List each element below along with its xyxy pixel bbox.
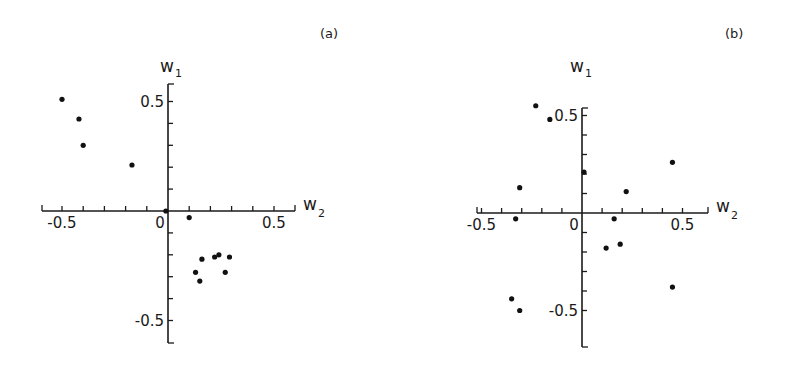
y-tick-label: -0.5 — [549, 302, 578, 320]
scatter-panel-b: -0.500.50.5-0.5w1w2(b) — [467, 26, 744, 347]
scatter-chart-figure: -0.500.50.5-0.5w1w2(a)-0.500.50.5-0.5w1w… — [0, 0, 785, 367]
data-point — [129, 162, 134, 167]
data-point — [199, 257, 204, 262]
data-point — [187, 215, 192, 220]
data-point — [223, 270, 228, 275]
y-axis-label: w — [160, 56, 174, 76]
panel-label: (b) — [725, 26, 743, 41]
data-point — [581, 169, 586, 174]
x-tick-label: -0.5 — [467, 216, 496, 234]
data-point — [193, 270, 198, 275]
y-axis-label-subscript: 1 — [175, 67, 182, 80]
data-point — [163, 208, 168, 213]
data-point — [216, 252, 221, 257]
x-tick-label: 0.5 — [671, 216, 695, 234]
data-point — [624, 189, 629, 194]
data-point — [604, 246, 609, 251]
x-axis-label-subscript: 2 — [731, 209, 738, 222]
data-point — [670, 285, 675, 290]
data-point — [513, 216, 518, 221]
y-tick-label: -0.5 — [135, 312, 164, 330]
data-point — [517, 308, 522, 313]
y-axis-label-subscript: 1 — [585, 67, 592, 80]
x-axis-label-subscript: 2 — [318, 207, 325, 220]
data-point — [509, 296, 514, 301]
x-tick-label: 0 — [155, 214, 165, 232]
data-point — [517, 185, 522, 190]
data-point — [670, 160, 675, 165]
scatter-panel-a: -0.500.50.5-0.5w1w2(a) — [42, 26, 338, 343]
data-point — [76, 116, 81, 121]
data-point — [59, 97, 64, 102]
x-tick-label: 0 — [569, 216, 579, 234]
panel-label: (a) — [320, 26, 338, 41]
data-point — [533, 103, 538, 108]
data-point — [618, 242, 623, 247]
data-point — [81, 143, 86, 148]
data-point — [197, 278, 202, 283]
y-tick-label: 0.5 — [554, 107, 578, 125]
x-tick-label: 0.5 — [262, 214, 286, 232]
x-tick-label: -0.5 — [47, 214, 76, 232]
x-axis-label: w — [303, 194, 317, 214]
y-tick-label: 0.5 — [140, 93, 164, 111]
x-axis-label: w — [716, 196, 730, 216]
y-axis-label: w — [570, 56, 584, 76]
data-point — [227, 254, 232, 259]
data-point — [547, 117, 552, 122]
data-point — [612, 216, 617, 221]
